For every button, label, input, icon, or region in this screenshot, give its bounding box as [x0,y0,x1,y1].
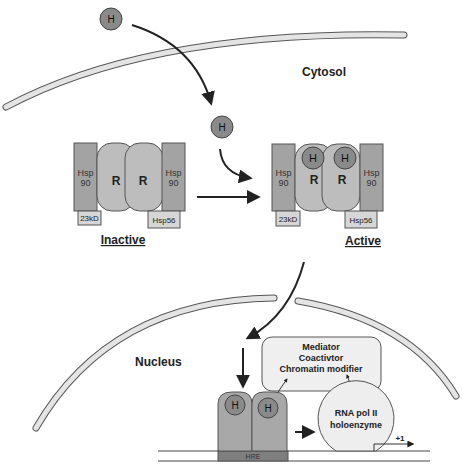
hormone-label: H [107,14,114,25]
hsp90-label: 90 [168,178,178,188]
hsp90-label: 90 [366,178,376,188]
holoenzyme-label: holoenzyme [330,420,382,430]
tss-label: +1 [395,434,405,443]
hsp90-label: Hsp [363,168,379,178]
hormone-entry-arrow [132,25,211,103]
23kd-label: 23kD [80,214,99,223]
hormone-label: H [218,122,225,133]
hre-label: HRE [246,453,261,460]
coactivator-label: Coactivtor [299,353,344,363]
hsp90-label: 90 [80,178,90,188]
hsp56-label: Hsp56 [349,216,373,225]
hormone-label: H [341,152,349,164]
hormone-label: H [309,152,317,164]
inactive-receptor-complex: Hsp 90 Hsp 90 R R 23kD Hsp56 Inactive [74,143,185,247]
hormone-binding-arrow [220,149,250,178]
inactive-label: Inactive [101,233,146,247]
hsp90-label: Hsp [165,168,181,178]
active-receptor-complex: H H Hsp 90 Hsp 90 R R 23kD Hsp56 Active [272,144,383,248]
steroid-receptor-diagram: Cytosol H H Hsp 90 Hsp 90 R R 23kD Hsp56… [0,0,462,469]
dna-bound-receptor-dimer: H H [218,392,287,451]
hormone-cytosolic: H [211,116,233,138]
receptor-label: R [139,174,148,188]
hsp90-label: Hsp [77,168,93,178]
hsp56-label: Hsp56 [152,216,176,225]
hormone-label: H [264,403,271,414]
rna-pol-ii-holoenzyme: RNA pol II holoenzyme [318,381,394,451]
rna-pol-label: RNA pol II [335,408,378,418]
23kd-label: 23kD [279,215,298,224]
active-label: Active [345,234,381,248]
dna [158,451,430,461]
chromatin-modifier-label: Chromatin modifier [279,364,363,374]
hsp90-label: Hsp [275,168,291,178]
cytosol-label: Cytosol [302,65,346,79]
mediator-label: Mediator [302,342,340,352]
receptor-label: R [112,174,121,188]
receptor-label: R [338,173,347,187]
nucleus-label: Nucleus [135,355,182,369]
hormone-extracellular: H [100,8,122,30]
hsp90-label: 90 [278,178,288,188]
receptor-label: R [310,173,319,187]
hormone-label: H [231,400,238,411]
